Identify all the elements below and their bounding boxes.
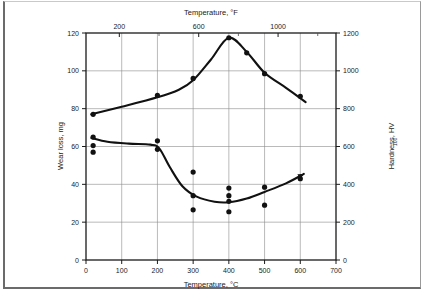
data-point-marker <box>262 71 267 76</box>
data-point-marker <box>226 193 231 198</box>
right-axis-title-subscript: 100 <box>392 137 398 146</box>
tick-label-right: 1000 <box>343 67 359 74</box>
tick-label-top: 1000 <box>270 23 286 30</box>
data-point-marker <box>191 193 196 198</box>
tick-label-left: 100 <box>67 67 79 74</box>
figure-container: 0100200300400500600700 020406080100120 0… <box>0 0 425 295</box>
tick-label-bottom: 600 <box>294 267 306 274</box>
data-point-marker <box>262 185 267 190</box>
data-point-marker <box>91 112 96 117</box>
series-trend-curve <box>91 138 303 203</box>
left-axis-title: Wear loss, mg <box>56 122 65 170</box>
data-point-marker <box>298 94 303 99</box>
bottom-axis-title: Temperature, °C <box>184 280 239 289</box>
tick-label-bottom: 200 <box>152 267 164 274</box>
top-axis-tick-labels: 2006001000 <box>113 23 285 30</box>
right-axis-tick-labels: 020040060080010001200 <box>343 30 359 264</box>
tick-label-left: 0 <box>75 257 79 264</box>
tick-label-left: 20 <box>71 219 79 226</box>
data-point-marker <box>226 209 231 214</box>
right-axis-title-group: Hardness, HV 100 <box>387 123 398 170</box>
tick-label-left: 40 <box>71 181 79 188</box>
data-point-marker <box>155 93 160 98</box>
data-point-marker <box>155 147 160 152</box>
horizontal-gridlines <box>86 71 336 222</box>
data-point-marker <box>191 76 196 81</box>
data-point-marker <box>226 186 231 191</box>
data-point-marker <box>91 150 96 155</box>
data-point-marker <box>262 203 267 208</box>
data-point-marker <box>155 138 160 143</box>
data-point-marker <box>191 207 196 212</box>
tick-label-bottom: 300 <box>187 267 199 274</box>
data-series <box>91 35 306 117</box>
chart-plot-area: 0100200300400500600700 020406080100120 0… <box>0 0 425 295</box>
tick-label-left: 80 <box>71 105 79 112</box>
tick-label-right: 0 <box>343 257 347 264</box>
data-series-layer <box>91 35 306 214</box>
data-point-marker <box>91 134 96 139</box>
tick-label-bottom: 500 <box>259 267 271 274</box>
tick-label-left: 120 <box>67 30 79 37</box>
data-point-marker <box>226 35 231 40</box>
tick-label-right: 400 <box>343 181 355 188</box>
tick-label-bottom: 100 <box>116 267 128 274</box>
tick-label-right: 200 <box>343 219 355 226</box>
tick-label-top: 200 <box>113 23 125 30</box>
tick-label-bottom: 0 <box>84 267 88 274</box>
data-point-marker <box>226 199 231 204</box>
data-point-marker <box>244 50 249 55</box>
bottom-axis-tick-labels: 0100200300400500600700 <box>84 267 342 274</box>
data-point-marker <box>91 143 96 148</box>
chart-svg: 0100200300400500600700 020406080100120 0… <box>0 0 425 295</box>
data-point-marker <box>191 169 196 174</box>
tick-label-bottom: 700 <box>330 267 342 274</box>
tick-label-left: 60 <box>71 143 79 150</box>
tick-label-top: 600 <box>193 23 205 30</box>
tick-label-bottom: 400 <box>223 267 235 274</box>
tick-label-right: 600 <box>343 143 355 150</box>
series-trend-curve <box>91 38 305 115</box>
top-axis-title: Temperature, °F <box>184 8 238 17</box>
tick-label-right: 800 <box>343 105 355 112</box>
left-axis-tick-labels: 020406080100120 <box>67 30 79 264</box>
data-point-marker <box>298 176 303 181</box>
tick-label-right: 1200 <box>343 30 359 37</box>
